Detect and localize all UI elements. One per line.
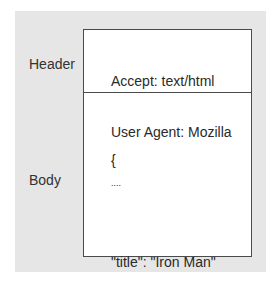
body-line-open-brace: { bbox=[111, 152, 216, 169]
body-line-blank bbox=[111, 203, 216, 220]
body-line-title: "title": "Iron Man" bbox=[111, 254, 216, 271]
body-label: Body bbox=[29, 172, 61, 188]
body-content: { "title": "Iron Man" "year": 2008 ... } bbox=[111, 118, 216, 281]
header-line-accept: Accept: text/html bbox=[111, 73, 232, 90]
header-label: Header bbox=[29, 56, 75, 72]
